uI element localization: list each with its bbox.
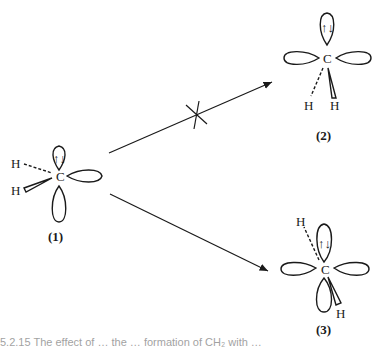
lone-pair-2: ↑↓ — [321, 20, 334, 35]
structure-label-3: (3) — [316, 322, 331, 337]
hydrogen-3b: H — [336, 306, 345, 321]
hydrogen-3a: H — [296, 214, 305, 229]
orbital-lobe-right — [334, 262, 369, 275]
dashed-bond — [24, 164, 52, 173]
lone-pair-3: ↑↓ — [318, 236, 331, 251]
hydrogen-1a: H — [11, 156, 20, 171]
carbon-atom-3: C — [321, 262, 330, 277]
arrow-1-to-2 — [109, 82, 272, 153]
hydrogen-2a: H — [304, 98, 313, 113]
orbital-lobe-right — [336, 52, 371, 65]
figure-caption: 5.2.15 The effect of … the … formation o… — [0, 336, 382, 348]
dashed-bond — [311, 68, 323, 96]
orbital-lobe-bottom — [52, 186, 66, 222]
orbital-lobe-right — [67, 170, 102, 182]
orbital-lobe-left — [284, 52, 319, 65]
carbon-atom-1: C — [56, 169, 65, 184]
wedge-bond — [328, 68, 336, 98]
hydrogen-2b: H — [330, 98, 339, 113]
hydrogen-1b: H — [11, 183, 20, 198]
structure-label-1: (1) — [48, 229, 63, 244]
arrow-1-to-3 — [110, 194, 268, 271]
wedge-bond — [24, 178, 52, 192]
lone-pair-1: ↑↓ — [53, 151, 66, 166]
structure-label-2: (2) — [316, 128, 331, 143]
carbon-atom-2: C — [323, 51, 332, 66]
orbital-lobe-left — [281, 262, 316, 275]
